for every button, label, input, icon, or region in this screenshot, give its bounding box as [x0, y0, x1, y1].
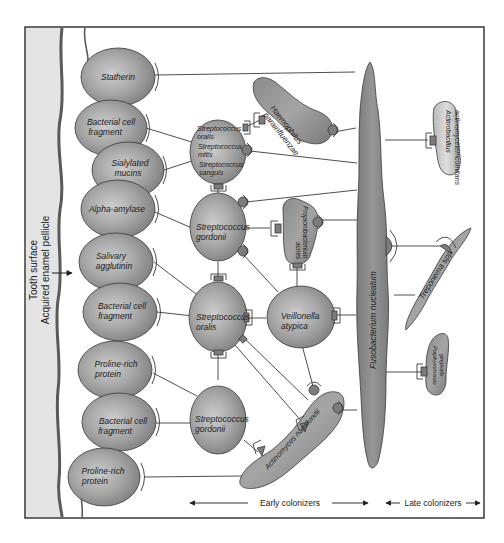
svg-text:Bacterial cell: Bacterial cell: [87, 117, 136, 127]
svg-text:Actinobacillus: Actinobacillus: [445, 109, 452, 153]
svg-text:acnes: acnes: [295, 242, 302, 260]
cell-streptococcus-oralis-mitis-sanguis: Streptococcus oralis Streptococcus mitis…: [190, 120, 252, 191]
cell-actinobacillus-actinomycetemcomitans: Actinobacillus actinomycetemcomitans: [426, 102, 461, 186]
cell-propionibacterium-acnes: Propionibacterium acnes: [271, 198, 323, 270]
receptor-bacterial-cell-fragment-2: Bacterial cell fragment: [83, 283, 161, 341]
cell-actinomyces-naeslundii: Actinomyces naeslundii: [240, 382, 344, 488]
cell-streptococcus-gordonii-2: Streptococcus gordonii: [190, 386, 250, 454]
colonizer-axis: Early colonizers Late colonizers: [190, 498, 480, 508]
receptor-salivary-agglutinin: Salivary agglutinin: [79, 233, 157, 291]
svg-text:Proline-rich: Proline-rich: [82, 466, 125, 476]
cell-treponema-spp: Treponema spp.: [406, 228, 471, 330]
svg-text:gordonii: gordonii: [196, 232, 227, 242]
receptor-statherin: Statherin: [81, 48, 159, 106]
svg-text:oralis: oralis: [196, 322, 217, 332]
pellicle-label: Acquired enamel pellicle: [40, 215, 51, 324]
svg-text:mucins: mucins: [115, 168, 143, 178]
tooth-surface-label: Tooth surface: [28, 240, 39, 300]
receptor-bacterial-cell-fragment-3: Bacterial cell fragment: [82, 393, 160, 451]
svg-text:Bacterial cell: Bacterial cell: [98, 301, 147, 311]
svg-text:sanguis: sanguis: [199, 169, 224, 177]
svg-text:Streptococcus: Streptococcus: [196, 312, 251, 322]
cell-porphyromonas-gingivalis: Porphyromonas gingivalis: [417, 334, 449, 396]
svg-text:Proline-rich: Proline-rich: [95, 359, 138, 369]
svg-text:Bacterial cell: Bacterial cell: [99, 416, 148, 426]
svg-text:fragment: fragment: [98, 311, 132, 321]
svg-text:atypica: atypica: [281, 321, 308, 331]
svg-text:Alpha-amylase: Alpha-amylase: [88, 204, 145, 214]
svg-text:protein: protein: [81, 476, 108, 486]
cell-veillonella-atypica: Veillonella atypica: [267, 286, 340, 348]
svg-text:fragment: fragment: [98, 426, 132, 436]
svg-text:Streptococcus: Streptococcus: [195, 414, 250, 424]
svg-text:Veillonella: Veillonella: [281, 311, 320, 321]
svg-text:Sialylated: Sialylated: [112, 158, 149, 168]
svg-text:Streptococcus: Streptococcus: [199, 161, 244, 169]
receptor-proline-rich-protein-2: Proline-rich protein: [68, 448, 145, 506]
svg-text:Streptococcus: Streptococcus: [196, 222, 251, 232]
svg-text:agglutinin: agglutinin: [96, 261, 133, 271]
svg-text:fragment: fragment: [88, 127, 122, 137]
svg-text:mitis: mitis: [198, 151, 213, 158]
early-colonizers: Streptococcus oralis Streptococcus mitis…: [189, 78, 344, 489]
cell-haemophilus-parainfluenzae: Haemophilus parainfluenzae: [253, 78, 338, 158]
late-colonizers-label: Late colonizers: [404, 498, 461, 508]
svg-text:gordonii: gordonii: [195, 424, 226, 434]
svg-text:oralis: oralis: [197, 133, 214, 140]
svg-text:Salivary: Salivary: [96, 251, 127, 261]
svg-text:Streptococcus: Streptococcus: [197, 125, 242, 133]
svg-text:Streptococcus: Streptococcus: [198, 143, 243, 151]
svg-text:Porphyromonas: Porphyromonas: [432, 346, 438, 385]
cell-streptococcus-gordonii-1: Streptococcus gordonii: [190, 193, 251, 261]
svg-text:Treponema spp.: Treponema spp.: [417, 247, 455, 301]
svg-text:gingivalis: gingivalis: [439, 354, 445, 377]
svg-text:Fusobacterium nucleatum: Fusobacterium nucleatum: [368, 271, 378, 369]
svg-text:actinomycetemcomitans: actinomycetemcomitans: [453, 110, 461, 186]
receptor-proline-rich-protein-1: Proline-rich protein: [78, 341, 156, 399]
late-colonizers: Actinobacillus actinomycetemcomitans Tre…: [406, 102, 471, 396]
svg-text:protein: protein: [94, 369, 121, 379]
oral-biofilm-coaggregation-diagram: Tooth surface Acquired enamel pellicle: [0, 0, 504, 543]
pellicle-receptors: Statherin Bacterial cell fragment Sialyl…: [68, 48, 167, 506]
cell-fusobacterium-nucleatum: Fusobacterium nucleatum: [357, 62, 397, 468]
early-colonizers-label: Early colonizers: [260, 498, 320, 508]
cell-streptococcus-oralis: Streptococcus oralis: [189, 274, 252, 358]
svg-text:Statherin: Statherin: [101, 72, 135, 82]
